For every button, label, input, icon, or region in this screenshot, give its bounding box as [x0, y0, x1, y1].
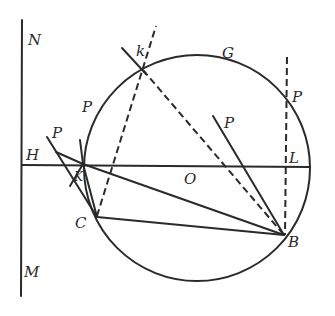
- label-m: M: [23, 263, 40, 281]
- label-p-center: P: [223, 114, 235, 132]
- line-nm: [21, 20, 22, 296]
- dashed-line-pl: [285, 57, 287, 235]
- label-k-lower: k: [136, 42, 145, 60]
- label-b: B: [287, 233, 299, 251]
- line-p-b: [213, 116, 284, 235]
- label-p-upper-left: P: [51, 124, 63, 142]
- label-n: N: [27, 31, 42, 49]
- label-g: G: [222, 44, 234, 62]
- label-l: L: [288, 149, 299, 167]
- label-p-right: P: [291, 88, 303, 106]
- label-p-left: P: [81, 98, 93, 116]
- line-k-c: [83, 164, 97, 217]
- label-k-small: K: [73, 170, 84, 184]
- geometry-diagram: N M H K k G P P P P L O C B: [0, 0, 335, 316]
- tick-k: [80, 140, 83, 164]
- label-c: C: [75, 214, 87, 232]
- circle-o: [84, 55, 310, 281]
- label-h: H: [25, 146, 40, 164]
- line-p-c: [47, 137, 97, 217]
- label-o: O: [184, 170, 196, 188]
